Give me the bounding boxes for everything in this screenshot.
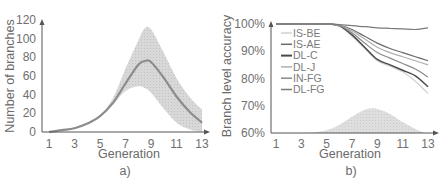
a-y-tick: 60 xyxy=(23,69,37,83)
legend-label: IS-BE xyxy=(293,27,320,39)
b-x-axis-arrow-icon xyxy=(433,131,439,136)
b-x-axis-label: Generation xyxy=(319,147,381,161)
b-y-tick: 80% xyxy=(241,72,265,86)
b-x-tick: 3 xyxy=(298,137,305,151)
b-x-tick: 1 xyxy=(273,137,280,151)
chart-b-branch-level-accuracy: 60%70%80%90%100% 135791113 IS-BEIS-AEDL-… xyxy=(220,14,439,178)
a-y-axis-label: Number of branches xyxy=(3,19,17,132)
a-caption: a) xyxy=(119,164,130,178)
b-y-tick: 70% xyxy=(241,99,265,113)
figure: 020406080100120 135791113 Generation Num… xyxy=(0,0,441,180)
a-std-band xyxy=(49,27,202,132)
b-y-tick-labels: 60%70%80%90%100% xyxy=(234,17,265,140)
b-y-axis-label: Branch level accuracy xyxy=(220,14,234,137)
chart-a-number-of-branches: 020406080100120 135791113 Generation Num… xyxy=(3,13,210,178)
b-x-tick: 11 xyxy=(396,137,409,151)
b-y-tick: 100% xyxy=(234,17,265,31)
legend-item-is-be: IS-BE xyxy=(281,27,320,39)
a-y-tick: 120 xyxy=(16,13,36,27)
a-x-tick: 11 xyxy=(170,137,183,151)
legend-item-dl-fg: DL-FG xyxy=(281,83,325,95)
legend-label: DL-J xyxy=(293,61,315,73)
a-x-axis-label: Generation xyxy=(98,147,160,161)
a-y-axis-arrow-icon xyxy=(40,19,45,25)
legend-label: IN-FG xyxy=(293,72,322,84)
legend-item-dl-c: DL-C xyxy=(281,49,318,61)
a-y-tick: 0 xyxy=(29,125,36,139)
legend-label: IS-AE xyxy=(293,38,320,50)
b-caption: b) xyxy=(345,164,356,178)
a-x-tick: 13 xyxy=(195,137,209,151)
a-x-tick: 1 xyxy=(46,137,53,151)
a-y-tick: 80 xyxy=(23,50,37,64)
a-y-tick: 20 xyxy=(23,106,37,120)
a-x-tick: 3 xyxy=(71,137,78,151)
b-y-tick: 60% xyxy=(241,126,265,140)
a-y-tick-labels: 020406080100120 xyxy=(16,13,36,139)
legend-item-is-ae: IS-AE xyxy=(281,38,320,50)
b-legend: IS-BEIS-AEDL-CDL-JIN-FGDL-FG xyxy=(281,27,325,96)
b-x-tick: 13 xyxy=(421,137,435,151)
legend-item-dl-j: DL-J xyxy=(281,61,315,73)
a-y-tick: 40 xyxy=(23,88,37,102)
b-y-axis-arrow-icon xyxy=(269,21,274,27)
a-y-tick: 100 xyxy=(16,32,36,46)
b-y-tick: 90% xyxy=(241,44,265,58)
a-x-axis-arrow-icon xyxy=(204,130,210,135)
legend-label: DL-C xyxy=(293,49,318,61)
legend-label: DL-FG xyxy=(293,83,325,95)
b-background-distribution xyxy=(276,108,426,133)
legend-item-in-fg: IN-FG xyxy=(281,72,322,84)
